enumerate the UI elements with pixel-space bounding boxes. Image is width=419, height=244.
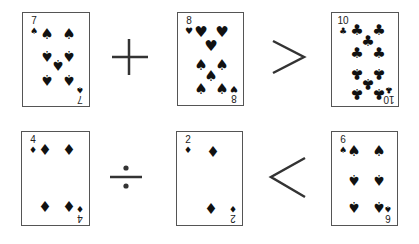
suit-pip-icon: ♠ [372,144,385,159]
suit-pip-icon: ♦ [38,143,51,158]
card-rank-bottom: 6 [385,213,391,223]
suit-pip-icon: ♦ [204,202,217,217]
card-suit-index-top: ♦ [184,146,192,155]
divide-icon [108,163,144,193]
card-suit-index-bottom: ♥ [230,84,238,93]
card-suit-index-top: ♥ [185,27,193,36]
card-suit-index-bottom: ♣ [385,85,393,94]
greater-than-icon [270,37,310,77]
suit-pip-icon: ♦ [206,145,219,160]
card-rank-top: 4 [30,135,36,145]
card-suit-index-top: ♣ [339,27,347,36]
plus-icon [110,37,150,77]
suit-pip-icon: ♠ [40,27,53,42]
suit-pip-icon: ♠ [347,172,360,187]
card-rank-bottom: 8 [231,93,237,103]
suit-pip-icon: ♦ [38,200,51,215]
suit-pip-icon: ♣ [350,46,363,61]
card-rank-top: 6 [340,135,346,145]
suit-pip-icon: ♠ [372,172,385,187]
card-eight-of-hearts: 8♥8♥♥♥♥♠♠♠♠♠ [177,12,244,106]
suit-pip-icon: ♣ [372,46,385,61]
suit-pip-icon: ♦ [62,200,75,215]
suit-pip-icon: ♣ [350,86,363,101]
card-suit-index-top: ♠ [339,146,347,155]
suit-pip-icon: ♦ [62,143,75,158]
card-suit-index-bottom: ♦ [76,204,84,213]
suit-pip-icon: ♣ [372,86,385,101]
card-rank-top: 7 [31,16,37,26]
card-four-of-diamonds: 4♦4♦♦♦♦♦ [21,131,90,226]
card-two-of-diamonds: 2♦2♦♦♦ [176,131,243,226]
suit-pip-icon: ♠ [347,144,360,159]
suit-pip-icon: ♥ [204,39,217,54]
card-suit-index-bottom: ♠ [76,85,84,94]
card-suit-index-top: ♦ [29,146,37,155]
suit-pip-icon: ♠ [62,72,75,87]
suit-pip-icon: ♠ [194,82,207,97]
card-rank-top: 10 [337,16,348,26]
card-six-of-spades: 6♠6♠♠♠♠♠♠♠ [331,131,398,226]
suit-pip-icon: ♠ [51,57,64,72]
less-than-icon [268,155,308,201]
suit-pip-icon: ♠ [215,82,228,97]
suit-pip-icon: ♥ [215,25,228,40]
card-rank-top: 8 [186,16,192,26]
card-rank-bottom: 7 [77,94,83,104]
suit-pip-icon: ♠ [62,27,75,42]
card-ten-of-clubs: 10♣10♣♣♣♣♣♣♣♣♣♣♣ [331,12,399,107]
suit-pip-icon: ♠ [347,199,360,214]
card-rank-bottom: 2 [230,213,236,223]
card-rank-top: 2 [185,135,191,145]
card-suit-index-bottom: ♦ [229,204,237,213]
card-suit-index-top: ♠ [30,27,38,36]
suit-pip-icon: ♠ [372,199,385,214]
card-rank-bottom: 4 [77,213,83,223]
suit-pip-icon: ♠ [40,72,53,87]
card-seven-of-spades: 7♠7♠♠♠♠♠♠♠♠ [22,12,90,107]
